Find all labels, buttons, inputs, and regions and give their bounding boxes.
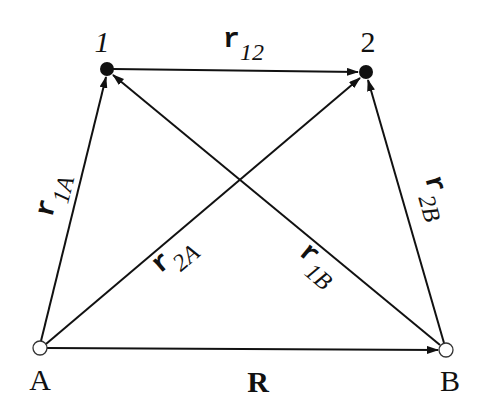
label-r2B-sub: 2B xyxy=(413,192,445,225)
node-A xyxy=(33,341,47,355)
label-r2A: r 2A xyxy=(145,228,204,287)
node-1-label: 1 xyxy=(95,25,110,58)
edge-r2A xyxy=(46,78,360,344)
node-B-label: B xyxy=(440,364,460,397)
edge-r12 xyxy=(113,69,358,72)
node-1 xyxy=(100,62,114,76)
label-R: R xyxy=(247,365,269,398)
label-r12-main: r xyxy=(223,24,240,55)
vector-diagram: 1 2 A B r 12 r 1A r 2A r 1B r 2B R xyxy=(0,0,488,414)
edge-R xyxy=(47,348,438,350)
label-r1A-sub: 1A xyxy=(47,173,79,205)
label-r1B: r 1B xyxy=(287,236,346,295)
node-A-label: A xyxy=(29,363,51,396)
node-2-label: 2 xyxy=(361,25,376,58)
label-r12-sub: 12 xyxy=(240,39,264,65)
node-B xyxy=(439,343,453,357)
label-r12: r 12 xyxy=(223,24,264,65)
label-r2B: r 2B xyxy=(409,172,460,225)
node-2 xyxy=(359,65,373,79)
edge-r1B xyxy=(113,75,440,345)
